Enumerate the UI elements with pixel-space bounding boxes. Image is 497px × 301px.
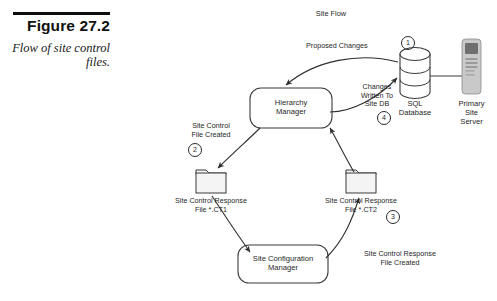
step-marker-3: 3	[386, 210, 400, 224]
edge-label-changes-written-to-site-db: Changes Written To Site DB	[352, 83, 402, 109]
primary-site-server-label: Primary Site Server	[448, 99, 495, 127]
edge-label-site-control-response-file-created: Site Control Response File Created	[350, 250, 450, 267]
folder-ct1-shape	[196, 170, 226, 193]
figure-caption-text: Flow of site control files.	[0, 41, 110, 69]
folder-ct1-label: Site Control Response File *.CT1	[161, 197, 261, 214]
figure-caption-block: Figure 27.2 Flow of site control files.	[0, 0, 120, 301]
folder-ct2-shape	[346, 170, 376, 193]
arrow-ct2-to-hierarchy-manager	[330, 128, 354, 172]
primary-site-server-shape	[462, 39, 481, 94]
step-marker-1: 1	[401, 36, 415, 50]
hierarchy-manager-label: Hierarchy Manager	[250, 98, 332, 116]
arrow-proposed-changes	[286, 58, 398, 85]
step-marker-4: 4	[377, 111, 391, 125]
edge-label-site-control-file-created: Site Control File Created	[180, 122, 242, 139]
sql-database-shape	[400, 48, 430, 99]
site-configuration-manager-label: Site Configuration Manager	[238, 254, 328, 272]
figure-number: Figure 27.2	[0, 17, 110, 35]
step-marker-2: 2	[188, 143, 202, 157]
caption-rule-divider	[13, 12, 110, 15]
site-flow-diagram: Site Flow Hierarchy Manager Site Configu…	[130, 0, 497, 301]
diagram-title: Site Flow	[291, 10, 371, 19]
edge-label-proposed-changes: Proposed Changes	[306, 42, 398, 51]
